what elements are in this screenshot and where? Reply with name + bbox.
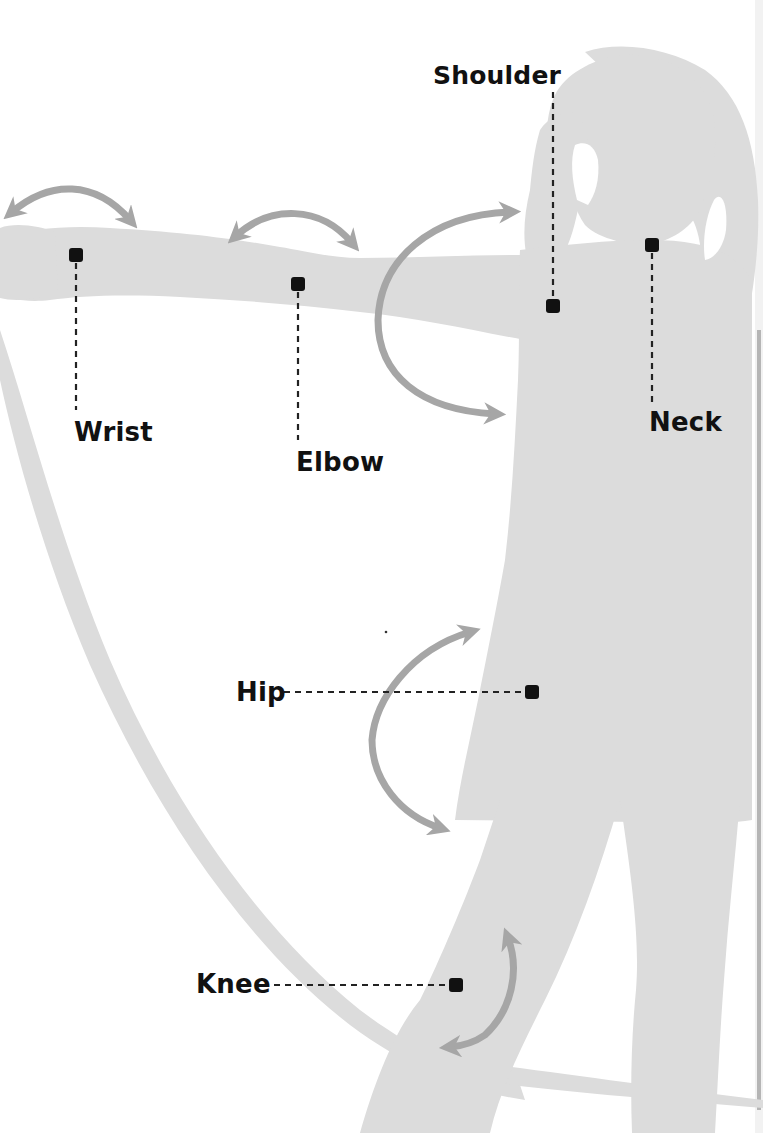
joint-diagram: Shoulder Neck Wrist Elbow Hip Knee <box>0 0 763 1133</box>
hip-marker <box>525 685 539 699</box>
shoulder-label: Shoulder <box>433 63 561 88</box>
wrist-motion-arrow <box>12 189 130 220</box>
wrist-marker <box>69 248 83 262</box>
neck-label: Neck <box>649 409 722 435</box>
neck-marker <box>645 238 659 252</box>
diagram-artwork <box>0 0 763 1133</box>
page-edge-shadow <box>757 330 761 1110</box>
elbow-motion-arrow <box>236 214 352 243</box>
elbow-marker <box>291 277 305 291</box>
wrist-label: Wrist <box>74 419 153 445</box>
hip-motion-arrow <box>372 632 470 828</box>
elbow-label: Elbow <box>296 449 384 475</box>
knee-marker <box>449 978 463 992</box>
shoulder-marker <box>546 299 560 313</box>
hip-label: Hip <box>236 679 286 705</box>
speck <box>385 631 388 634</box>
knee-label: Knee <box>196 971 271 997</box>
